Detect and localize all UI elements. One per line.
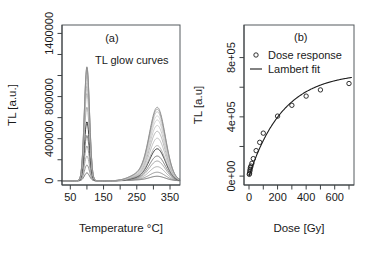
legend-marker-dose-response [254,53,258,57]
y-axis-a: 04000008000001400000 [43,12,62,185]
panel-b-svg: 0200400600 0e+004e+058e+05 (b) Dose resp… [188,0,367,258]
y-tick-label-a: 1400000 [43,12,55,55]
glow-curve [62,94,180,181]
data-point [258,140,262,144]
data-point [290,103,294,107]
x-tick-label-a: 350 [161,191,179,203]
data-point [254,148,258,152]
y-tick-label-a: 0 [43,178,55,184]
data-point [318,88,322,92]
data-point [261,131,265,135]
x-axis-b: 0200400600 [244,185,354,203]
y-tick-label-b: 4e+05 [225,101,237,132]
glow-curve [62,83,180,181]
glow-curve [62,77,180,181]
lambert-fit-curve [249,77,352,176]
y-tick-label-b: 0e+00 [225,161,237,192]
x-tick-label-b: 600 [326,191,344,203]
y-tick-label-b: 8e+05 [225,42,237,73]
y-axis-title-a: TL [a.u.] [6,84,18,126]
y-axis-b: 0e+004e+058e+05 [225,25,244,192]
data-point [304,94,308,98]
data-point [347,81,351,85]
figure-container: 50150250350 04000008000001400000 (a) TL … [0,0,367,258]
panel-label-b: (b) [294,31,307,43]
x-axis-title-b: Dose [Gy] [273,222,324,234]
panel-a-tl-glow-curves: 50150250350 04000008000001400000 (a) TL … [0,0,188,258]
x-tick-label-a: 150 [94,191,112,203]
x-axis-a: 50150250350 [62,185,180,203]
x-tick-label-b: 0 [246,191,252,203]
y-axis-title-b: TL [a.u] [192,86,204,125]
panel-label-a: (a) [105,32,118,44]
panel-a-annotation: TL glow curves [95,54,169,66]
x-tick-label-a: 250 [128,191,146,203]
panel-b-dose-response: 0200400600 0e+004e+058e+05 (b) Dose resp… [188,0,367,258]
x-tick-label-b: 200 [268,191,286,203]
panel-a-svg: 50150250350 04000008000001400000 (a) TL … [0,0,188,258]
y-tick-label-a: 400000 [43,120,55,157]
glow-curve-group [62,67,180,181]
legend-label-lambert-fit: Lambert fit [268,63,320,75]
legend-label-dose-response: Dose response [268,49,342,61]
x-tick-label-b: 400 [297,191,315,203]
y-tick-label-a: 800000 [43,78,55,115]
x-tick-label-a: 50 [64,191,76,203]
x-axis-title-a: Temperature °C] [79,222,163,234]
legend-b: Dose responseLambert fit [250,49,342,75]
